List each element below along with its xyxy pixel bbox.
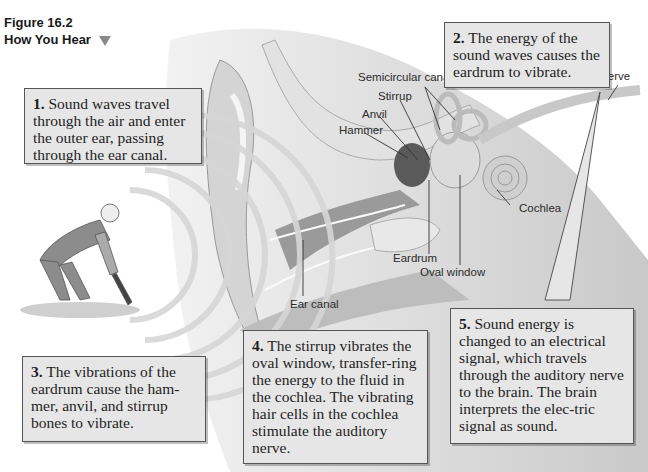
cochlea-shape (483, 156, 527, 200)
step-text: The energy of the sound waves causes the… (453, 29, 600, 80)
callout-step-2: 2. The energy of the sound waves causes … (444, 22, 610, 88)
callout-step-4: 4. The stirrup vibrates the oval window,… (243, 330, 428, 464)
callout-step-5: 5. Sound energy is changed to an electri… (450, 308, 634, 444)
label-stirrup: Stirrup (378, 90, 412, 102)
label-semicircular-canals: Semicircular canals (358, 71, 458, 83)
callout-step-3: 3. The vibrations of the eardrum cause t… (22, 356, 206, 442)
label-eardrum: Eardrum (393, 252, 437, 264)
jackhammer-worker (20, 204, 140, 318)
label-cochlea: Cochlea (519, 202, 561, 214)
step-text: Sound waves travel through the air and e… (33, 95, 185, 163)
label-oval-window: Oval window (420, 266, 485, 278)
step-text: The vibrations of the eardrum cause the … (31, 363, 179, 431)
step-number: 5. (459, 315, 471, 332)
step-number: 4. (252, 337, 264, 354)
label-anvil: Anvil (362, 108, 387, 120)
callout-step-1: 1. Sound waves travel through the air an… (24, 88, 202, 164)
step-number: 2. (453, 29, 465, 46)
label-hammer: Hammer (339, 124, 383, 136)
step-number: 1. (33, 95, 45, 112)
step-text: The stirrup vibrates the oval window, tr… (252, 337, 416, 456)
label-ear-canal: Ear canal (290, 298, 339, 310)
step-text: Sound energy is changed to an electrical… (459, 315, 624, 434)
step-number: 3. (31, 363, 43, 380)
